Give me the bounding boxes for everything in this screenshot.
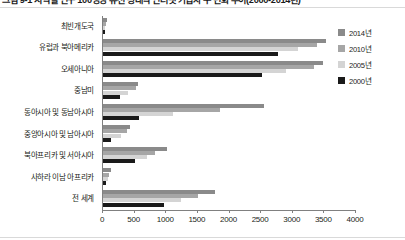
x-axis-tick xyxy=(355,210,356,213)
legend-item-2005[interactable]: 2005년 xyxy=(338,56,402,72)
legend-swatch-icon xyxy=(338,61,345,68)
bar-2000-4 xyxy=(103,116,139,120)
legend-label: 2005년 xyxy=(349,59,371,70)
x-axis-tick xyxy=(323,210,324,213)
x-axis-tick xyxy=(165,210,166,213)
chart-legend: 2014년2010년2005년2000년 xyxy=(338,24,402,88)
x-axis-tick xyxy=(134,210,135,213)
category-label: 중앙아시아 및 남아시아 xyxy=(0,130,94,139)
x-axis-tick xyxy=(292,210,293,213)
category-axis-labels: 최빈개도국유럽과 북아메리카오세아니아중남미동아시아 및 동남아시아중앙아시아 … xyxy=(0,16,98,210)
x-axis-tick xyxy=(102,210,103,213)
category-label: 최빈개도국 xyxy=(0,22,94,31)
chart-title-strip: 그림 9-1 지역별 인구 100명당 유선 광대역 인터넷 가입자 수 변화 … xyxy=(0,0,405,6)
x-axis-tick xyxy=(197,210,198,213)
legend-item-2014[interactable]: 2014년 xyxy=(338,24,402,40)
x-axis-tick xyxy=(260,210,261,213)
page-title: 그림 9-1 지역별 인구 100명당 유선 광대역 인터넷 가입자 수 변화 … xyxy=(0,0,405,6)
chart-container: 최빈개도국유럽과 북아메리카오세아니아중남미동아시아 및 동남아시아중앙아시아 … xyxy=(0,10,405,240)
category-label: 전 세계 xyxy=(0,194,94,203)
legend-label: 2014년 xyxy=(349,27,371,38)
bar-2000-3 xyxy=(103,95,120,99)
bar-2000-7 xyxy=(103,181,106,185)
plot-area: 05001000150020002500300035004000 xyxy=(102,16,355,210)
legend-swatch-icon xyxy=(338,77,345,84)
legend-label: 2000년 xyxy=(349,75,371,86)
category-label: 사하라 이남 아프리카 xyxy=(0,173,94,182)
legend-swatch-icon xyxy=(338,45,345,52)
bar-2000-0 xyxy=(103,30,105,34)
bar-2000-5 xyxy=(103,138,111,142)
title-divider xyxy=(0,7,405,8)
category-label: 북아프리카 및 서아시아 xyxy=(0,151,94,160)
legend-item-2010[interactable]: 2010년 xyxy=(338,40,402,56)
x-axis-tick-label: 4000 xyxy=(335,215,375,224)
legend-label: 2010년 xyxy=(349,43,371,54)
legend-swatch-icon xyxy=(338,29,345,36)
bar-2000-8 xyxy=(103,203,164,207)
category-label: 유럽과 북아메리카 xyxy=(0,43,94,52)
category-label: 동아시아 및 동남아시아 xyxy=(0,108,94,117)
legend-item-2000[interactable]: 2000년 xyxy=(338,72,402,88)
category-label: 오세아니아 xyxy=(0,65,94,74)
bottom-divider xyxy=(0,237,405,238)
bar-2000-2 xyxy=(103,73,262,77)
bar-2000-6 xyxy=(103,159,135,163)
category-label: 중남미 xyxy=(0,86,94,95)
bar-2000-1 xyxy=(103,52,278,56)
x-axis-tick xyxy=(229,210,230,213)
